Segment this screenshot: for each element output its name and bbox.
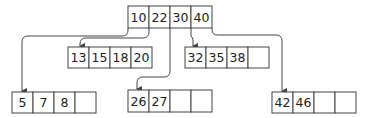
key: 18: [113, 50, 129, 65]
edge-root-to-child1: [80, 28, 149, 46]
node-child1: 13 15 18 20: [68, 47, 152, 68]
key: 8: [61, 95, 69, 110]
key: 7: [40, 95, 48, 110]
key: 26: [131, 94, 147, 109]
key: 40: [194, 10, 210, 25]
node-child4: 42 46: [272, 92, 356, 113]
key: 38: [230, 50, 246, 65]
key: 27: [152, 94, 168, 109]
node-root: 10 22 30 40: [128, 6, 212, 28]
key: 22: [152, 10, 168, 25]
key: 13: [71, 50, 87, 65]
key: 42: [275, 95, 291, 110]
key: 30: [173, 10, 189, 25]
b-tree-diagram: 10 22 30 40 5 7 8 13 15 18 20 26 27: [0, 0, 368, 118]
key: 35: [209, 50, 225, 65]
key: 5: [19, 95, 27, 110]
node-child0: 5 7 8: [12, 92, 96, 113]
key: 10: [131, 10, 147, 25]
node-child2: 26 27: [128, 90, 212, 112]
edge-root-to-child3: [191, 28, 193, 46]
node-child3: 32 35 38: [185, 47, 269, 68]
key: 20: [134, 50, 150, 65]
key: 15: [92, 50, 108, 65]
key: 32: [188, 50, 204, 65]
key: 46: [296, 95, 312, 110]
